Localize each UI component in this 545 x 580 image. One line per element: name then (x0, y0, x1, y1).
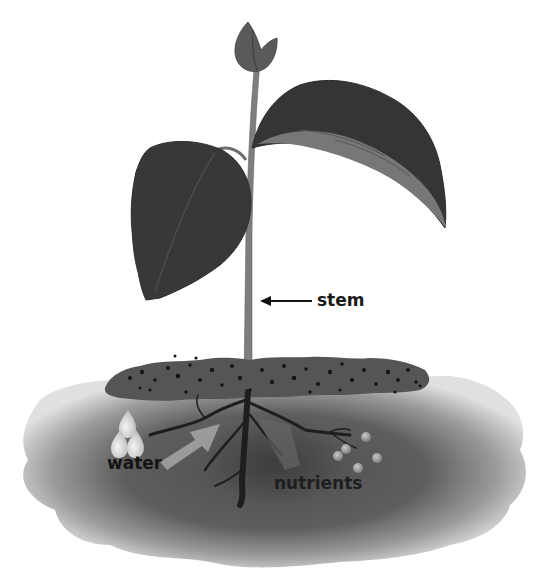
stem-label: stem (317, 290, 365, 310)
left-leaf (131, 141, 251, 300)
soil (23, 376, 526, 567)
stem-pointer-arrow (260, 296, 312, 306)
bud (235, 22, 277, 72)
nutrients-label: nutrients (274, 473, 362, 493)
plant-diagram: stem water nutrients (0, 0, 545, 580)
water-label: water (107, 453, 162, 473)
